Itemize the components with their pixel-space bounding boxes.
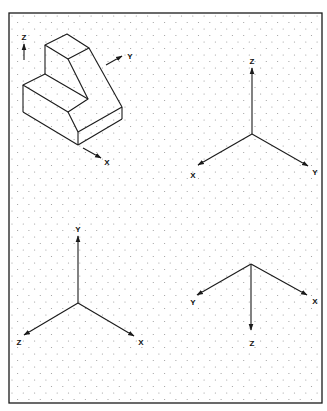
grid-dot	[249, 236, 250, 237]
grid-dot	[277, 295, 278, 296]
grid-dot	[136, 54, 137, 55]
grid-dot	[158, 288, 159, 289]
grid-dot	[79, 106, 80, 107]
grid-dot	[311, 295, 312, 296]
grid-dot	[23, 353, 24, 354]
grid-dot	[294, 15, 295, 16]
grid-dot	[209, 282, 210, 283]
grid-dot	[288, 399, 289, 400]
grid-dot	[34, 197, 35, 198]
grid-dot	[209, 165, 210, 166]
grid-dot	[294, 184, 295, 185]
grid-dot	[300, 126, 301, 127]
grid-dot	[45, 28, 46, 29]
grid-dot	[283, 262, 284, 263]
grid-dot	[91, 288, 92, 289]
grid-dot	[68, 236, 69, 237]
grid-dot	[254, 74, 255, 75]
object-edge	[89, 48, 122, 107]
grid-dot	[181, 275, 182, 276]
grid-dot	[249, 249, 250, 250]
grid-dot	[266, 230, 267, 231]
grid-dot	[85, 22, 86, 23]
grid-dot	[260, 327, 261, 328]
grid-dot	[181, 288, 182, 289]
grid-dot	[40, 347, 41, 348]
grid-dot	[237, 28, 238, 29]
grid-dot	[79, 119, 80, 120]
grid-dot	[96, 386, 97, 387]
grid-dot	[113, 301, 114, 302]
grid-dot	[249, 132, 250, 133]
grid-dot	[96, 399, 97, 400]
grid-dot	[141, 243, 142, 244]
grid-dot	[283, 158, 284, 159]
grid-dot	[266, 126, 267, 127]
grid-dot	[215, 15, 216, 16]
grid-dot	[107, 282, 108, 283]
grid-dot	[102, 210, 103, 211]
grid-dot	[62, 347, 63, 348]
grid-dot	[317, 132, 318, 133]
grid-dot	[181, 301, 182, 302]
grid-dot	[266, 308, 267, 309]
grid-dot	[11, 392, 12, 393]
grid-dot	[51, 152, 52, 153]
grid-dot	[158, 145, 159, 146]
grid-dot	[271, 379, 272, 380]
grid-dot	[17, 399, 18, 400]
grid-dot	[170, 236, 171, 237]
grid-dot	[305, 327, 306, 328]
grid-dot	[124, 67, 125, 68]
grid-dot	[34, 171, 35, 172]
grid-dot	[198, 126, 199, 127]
grid-dot	[204, 158, 205, 159]
grid-dot	[294, 327, 295, 328]
grid-dot	[271, 249, 272, 250]
axes-bottom-left: YZX	[17, 225, 145, 347]
grid-dot	[226, 340, 227, 341]
grid-dot	[271, 197, 272, 198]
grid-dot	[175, 100, 176, 101]
grid-dot	[294, 275, 295, 276]
grid-dot	[40, 87, 41, 88]
grid-dot	[91, 145, 92, 146]
grid-dot	[124, 80, 125, 81]
grid-dot	[158, 262, 159, 263]
grid-dot	[79, 340, 80, 341]
grid-dot	[300, 334, 301, 335]
grid-dot	[85, 165, 86, 166]
grid-dot	[226, 223, 227, 224]
grid-dot	[136, 275, 137, 276]
grid-dot	[215, 379, 216, 380]
grid-dot	[113, 340, 114, 341]
grid-dot	[300, 152, 301, 153]
grid-dot	[79, 15, 80, 16]
grid-dot	[119, 139, 120, 140]
grid-dot	[192, 210, 193, 211]
grid-dot	[136, 379, 137, 380]
grid-dot	[91, 184, 92, 185]
grid-dot	[102, 301, 103, 302]
grid-dot	[158, 28, 159, 29]
grid-dot	[170, 67, 171, 68]
grid-dot	[209, 87, 210, 88]
grid-dot	[294, 262, 295, 263]
grid-dot	[23, 262, 24, 263]
grid-dot	[215, 288, 216, 289]
grid-dot	[96, 48, 97, 49]
grid-dot	[136, 184, 137, 185]
grid-dot	[283, 41, 284, 42]
grid-dot	[243, 243, 244, 244]
grid-dot	[79, 210, 80, 211]
grid-dot	[113, 106, 114, 107]
grid-dot	[221, 269, 222, 270]
grid-dot	[266, 334, 267, 335]
grid-dot	[260, 171, 261, 172]
grid-dot	[237, 132, 238, 133]
grid-dot	[17, 139, 18, 140]
grid-dot	[305, 184, 306, 185]
grid-dot	[40, 74, 41, 75]
grid-dot	[91, 262, 92, 263]
grid-dot	[51, 100, 52, 101]
